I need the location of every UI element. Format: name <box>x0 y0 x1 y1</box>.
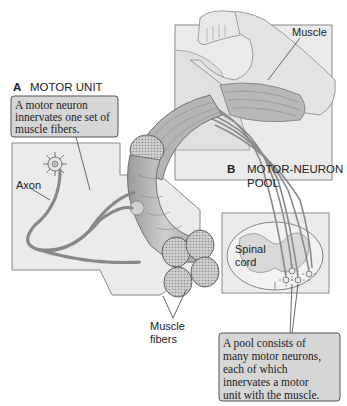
callout-b-line4: innervates a motor <box>223 376 309 388</box>
motor-unit-diagram: Muscle Spinal cord <box>0 0 347 406</box>
callout-b-line2: many motor neurons, <box>223 350 321 363</box>
spinal-cord-label-line1: Spinal <box>235 243 266 255</box>
motor-neuron-pool-panel: Spinal cord <box>222 213 329 293</box>
arm-panel: Muscle <box>175 11 335 180</box>
panel-a-letter: A <box>13 81 21 93</box>
motor-neuron-pool-callout: A pool consists of many motor neurons, e… <box>219 284 340 401</box>
callout-a-line3: muscle fibers. <box>15 123 80 135</box>
neuron-cell-body <box>43 152 67 176</box>
muscle-fibers-label-line2: fibers <box>150 333 177 345</box>
panel-b-title-line2: POOL <box>247 177 280 189</box>
panel-b-letter: B <box>227 163 235 175</box>
axon-label: Axon <box>16 179 41 191</box>
panel-a-heading: A MOTOR UNIT <box>13 81 103 93</box>
callout-a-line1: A motor neuron <box>15 99 88 111</box>
panel-a-title: MOTOR UNIT <box>30 81 103 93</box>
muscle-label: Muscle <box>292 26 327 38</box>
callout-b-line1: A pool consists of <box>223 337 306 350</box>
callout-b-line3: each of which <box>223 363 288 375</box>
callout-a-line2: innervates one set of <box>15 111 110 123</box>
muscle-fibers-label-group: Muscle fibers <box>150 290 186 345</box>
callout-b-line5: unit with the muscle. <box>223 389 320 401</box>
panel-b-title-line1: MOTOR-NEURON <box>247 163 343 175</box>
spinal-cord-label-line2: cord <box>235 256 256 268</box>
muscle-fibers-label-line1: Muscle <box>150 320 185 332</box>
